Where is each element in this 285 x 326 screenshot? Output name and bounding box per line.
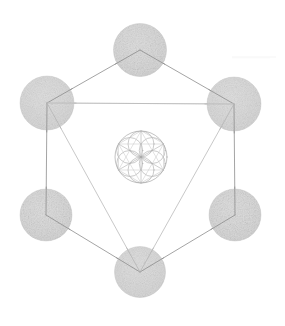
sacred-geometry-figure <box>0 0 285 326</box>
geometry-canvas <box>0 0 285 326</box>
